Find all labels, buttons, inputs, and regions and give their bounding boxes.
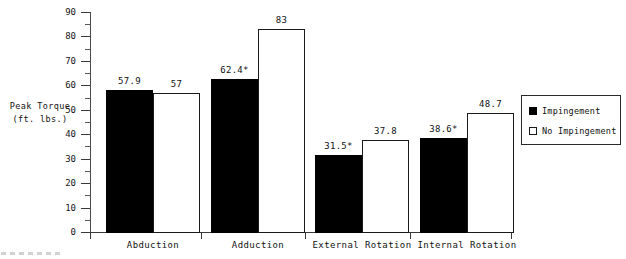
- legend-item-no-impingement: No Impingement: [529, 125, 616, 137]
- y-tick-minor: [85, 24, 90, 25]
- x-category-label: Internal Rotation: [390, 240, 544, 251]
- y-tick-label: 50: [50, 106, 76, 115]
- bar-no-impingement: [467, 113, 514, 233]
- y-tick-label: 10: [50, 204, 76, 213]
- bar-no-impingement: [362, 140, 409, 233]
- bar-no-impingement: [153, 93, 200, 233]
- x-tick: [410, 233, 411, 239]
- bar-no-impingement: [258, 29, 305, 233]
- y-tick-major: [81, 12, 90, 13]
- bar-impingement: [420, 138, 467, 233]
- legend-label-impingement: Impingement: [542, 107, 601, 116]
- y-tick-label: 30: [50, 155, 76, 164]
- legend-label-no-impingement: No Impingement: [542, 127, 616, 136]
- y-tick-label: 60: [50, 81, 76, 90]
- y-tick-label: 70: [50, 57, 76, 66]
- y-tick-label: 0: [50, 228, 76, 237]
- legend-item-impingement: Impingement: [529, 105, 601, 117]
- y-tick-major: [81, 85, 90, 86]
- y-tick-label: 80: [50, 32, 76, 41]
- legend-swatch-hollow-icon: [529, 127, 537, 135]
- bar-value-label: 37.8: [356, 126, 415, 136]
- y-tick-label: 20: [50, 179, 76, 188]
- y-tick-minor: [85, 73, 90, 74]
- y-tick-major: [81, 61, 90, 62]
- y-tick-minor: [85, 122, 90, 123]
- bar-impingement: [106, 90, 153, 233]
- y-tick-label: 90: [50, 8, 76, 17]
- y-tick-major: [81, 183, 90, 184]
- bar-value-label: 48.7: [461, 99, 520, 109]
- x-tick: [511, 233, 512, 239]
- y-tick-major: [81, 159, 90, 160]
- x-tick: [90, 233, 91, 239]
- y-tick-minor: [85, 98, 90, 99]
- y-tick-major: [81, 110, 90, 111]
- y-tick-minor: [85, 195, 90, 196]
- bar-chart: Peak Torque (ft. lbs.) 01020304050607080…: [0, 0, 626, 259]
- y-tick-minor: [85, 49, 90, 50]
- bar-impingement: [315, 155, 362, 233]
- bar-impingement: [211, 79, 258, 233]
- y-tick-minor: [85, 220, 90, 221]
- y-tick-minor: [85, 146, 90, 147]
- chart-legend: Impingement No Impingement: [521, 95, 621, 145]
- legend-swatch-filled-icon: [529, 107, 537, 115]
- x-tick: [201, 233, 202, 239]
- y-tick-major: [81, 208, 90, 209]
- y-axis-line: [90, 12, 91, 233]
- y-tick-major: [81, 232, 90, 233]
- bar-value-label: 83: [252, 15, 311, 25]
- bar-value-label: 38.6*: [414, 124, 473, 134]
- bar-value-label: 31.5*: [309, 141, 368, 151]
- y-tick-major: [81, 134, 90, 135]
- y-tick-major: [81, 36, 90, 37]
- y-tick-minor: [85, 171, 90, 172]
- bar-value-label: 57: [147, 79, 206, 89]
- y-tick-label: 40: [50, 130, 76, 139]
- bar-value-label: 62.4*: [205, 65, 264, 75]
- x-tick: [305, 233, 306, 239]
- scan-artifact: [1, 252, 63, 255]
